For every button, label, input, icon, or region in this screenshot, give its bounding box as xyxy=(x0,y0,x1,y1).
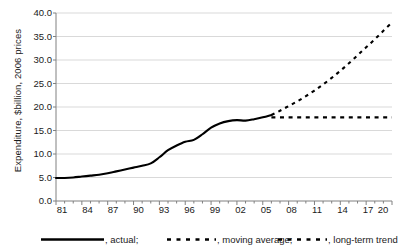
chart-legend: , actual; , moving average; , long-term … xyxy=(0,230,403,252)
x-axis-tick-labels: 81 84 87 90 93 96 99 02 05 08 11 14 17 2… xyxy=(0,204,403,220)
legend-label-moving-average: , moving average; xyxy=(217,234,293,245)
x-tick-label: 14 xyxy=(330,204,356,215)
x-tick-label: 02 xyxy=(228,204,254,215)
x-tick-label: 20 xyxy=(370,204,396,215)
x-tick-label: 87 xyxy=(100,204,126,215)
x-tick-label: 05 xyxy=(253,204,279,215)
chart-figure: Expenditure, $billion, 2006 prices 40.0 … xyxy=(0,0,403,252)
x-tick-label: 90 xyxy=(126,204,152,215)
x-tick-label: 08 xyxy=(279,204,305,215)
x-tick-label: 81 xyxy=(49,204,75,215)
gridlines xyxy=(56,13,392,178)
x-tick-label: 99 xyxy=(202,204,228,215)
legend-label-long-term-trend: , long-term trend xyxy=(328,234,398,245)
legend-label-actual: , actual; xyxy=(105,234,138,245)
series-actual-line xyxy=(56,115,271,178)
x-tick-label: 93 xyxy=(151,204,177,215)
x-tick-label: 84 xyxy=(75,204,101,215)
x-tick-label: 11 xyxy=(304,204,330,215)
x-tick-label: 96 xyxy=(177,204,203,215)
